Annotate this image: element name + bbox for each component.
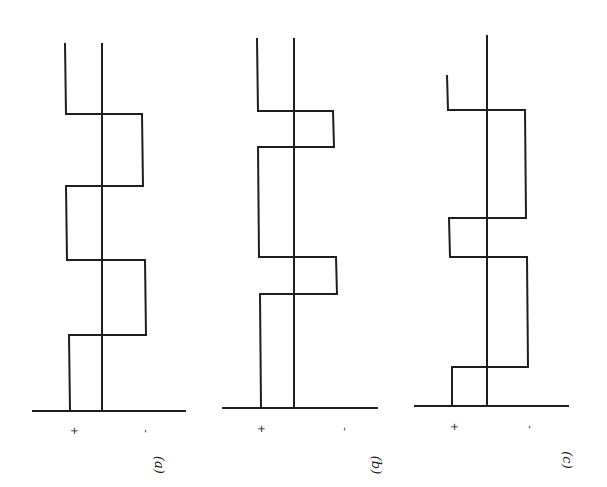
- panel-label: (b): [369, 456, 384, 474]
- minus-sign: -: [141, 429, 152, 433]
- panel-a: + - (a): [32, 43, 186, 474]
- minus-sign: -: [340, 427, 351, 431]
- square-wave: [65, 43, 146, 411]
- plus-sign: +: [449, 423, 460, 431]
- plus-sign: +: [69, 427, 80, 435]
- waveform-figure: + - (a) + - (b) + - (c): [0, 0, 607, 487]
- panel-b: + - (b): [222, 38, 384, 474]
- minus-sign: -: [525, 425, 536, 429]
- square-wave: [257, 38, 337, 408]
- panel-c: + - (c): [414, 35, 575, 469]
- panel-label: (c): [560, 451, 575, 468]
- panel-label: (a): [152, 456, 167, 474]
- plus-sign: +: [256, 425, 267, 433]
